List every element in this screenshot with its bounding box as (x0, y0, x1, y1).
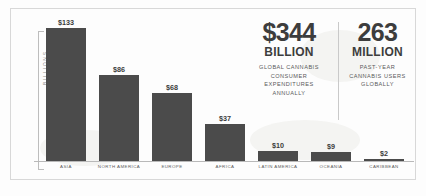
stat-expenditures-description: GLOBAL CANNABIS CONSUMER EXPENDITURES AN… (249, 63, 329, 98)
stat-expenditures: $344 BILLION GLOBAL CANNABIS CONSUMER EX… (243, 20, 335, 98)
bar-group-europe[interactable]: $68EUROPE (152, 84, 192, 161)
bar-value-label: $9 (311, 143, 351, 150)
bar[interactable] (364, 159, 404, 161)
stat-users-unit: MILLION (348, 46, 407, 59)
stat-users-description: PAST-YEAR CANNABIS USERS GLOBALLY (348, 63, 407, 89)
bar-value-label: $68 (152, 84, 192, 91)
bar[interactable] (205, 124, 245, 161)
stats-panel: $344 BILLION GLOBAL CANNABIS CONSUMER EX… (243, 20, 413, 120)
bar[interactable] (46, 28, 86, 161)
bar-category-label: ASIA (60, 164, 72, 169)
infographic-root: BILLIONS $133ASIA$86NORTH AMERICA$68EURO… (0, 0, 426, 196)
bar-value-label: $37 (205, 115, 245, 122)
stat-users-number: 263 (348, 20, 407, 45)
bar-category-label: OCEANIA (320, 164, 343, 169)
bar-group-latin-america[interactable]: $10LATIN AMERICA (258, 142, 298, 161)
bar-group-asia[interactable]: $133ASIA (46, 19, 86, 161)
bar-value-label: $133 (46, 19, 86, 26)
bar-category-label: CARIBBEAN (369, 164, 398, 169)
bar-group-africa[interactable]: $37AFRICA (205, 115, 245, 161)
bar[interactable] (258, 151, 298, 161)
bar-category-label: EUROPE (161, 164, 182, 169)
x-axis-baseline (34, 161, 414, 162)
stat-expenditures-unit: BILLION (249, 46, 329, 59)
bar-value-label: $10 (258, 142, 298, 149)
stat-users: 263 MILLION PAST-YEAR CANNABIS USERS GLO… (342, 20, 413, 89)
bar-category-label: AFRICA (216, 164, 235, 169)
bar[interactable] (99, 75, 139, 161)
bar-value-label: $2 (364, 150, 404, 157)
bar[interactable] (152, 93, 192, 161)
bar-group-north-america[interactable]: $86NORTH AMERICA (99, 66, 139, 161)
bar-group-oceania[interactable]: $9OCEANIA (311, 143, 351, 161)
bar-value-label: $86 (99, 66, 139, 73)
stat-expenditures-number: $344 (249, 20, 329, 45)
bar-group-caribbean[interactable]: $2CARIBBEAN (364, 150, 404, 161)
bar[interactable] (311, 152, 351, 161)
bar-category-label: NORTH AMERICA (98, 164, 140, 169)
bar-category-label: LATIN AMERICA (259, 164, 298, 169)
stats-divider (338, 22, 339, 120)
